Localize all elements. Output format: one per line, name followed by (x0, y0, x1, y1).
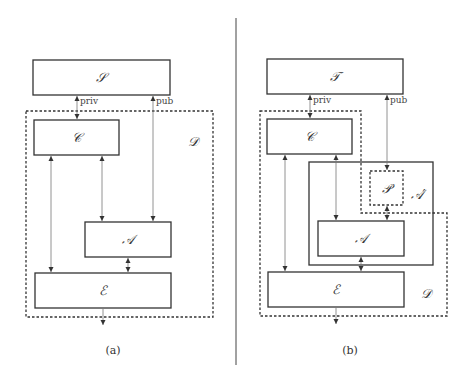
label-d-b: 𝒟 (421, 286, 434, 301)
label-d-a: 𝒟 (188, 134, 201, 149)
label-e-a: ℰ (99, 283, 108, 298)
edge-label-priv-b: priv (313, 95, 332, 105)
label-e-b: ℰ (332, 282, 341, 297)
panel-a: 𝒮 𝒞 𝒟 𝒜 ℰ priv pub (a) (26, 60, 213, 357)
label-p: 𝒫 (382, 181, 395, 196)
label-a-prime: 𝒜′ (411, 187, 427, 202)
edge-label-pub-a: pub (156, 96, 174, 106)
diagram-canvas: 𝒮 𝒞 𝒟 𝒜 ℰ priv pub (a) (0, 0, 475, 386)
caption-b: (b) (342, 344, 358, 357)
edge-label-pub-b: pub (390, 95, 408, 105)
panel-b: 𝒯 𝒞 𝒜′ 𝒫 𝒜 ℰ 𝒟 priv pub (260, 59, 447, 357)
edge-label-priv-a: priv (80, 96, 99, 106)
caption-a: (a) (105, 344, 120, 357)
